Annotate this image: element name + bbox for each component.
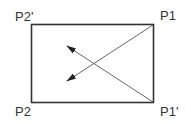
label-p1-prime: P1' — [160, 105, 178, 118]
label-p1: P1 — [160, 9, 176, 22]
arrow-from-p1 — [67, 25, 153, 81]
label-p2-prime: P2' — [15, 10, 33, 23]
label-p2: P2 — [15, 105, 31, 118]
arrow-from-p1-prime — [67, 46, 153, 102]
